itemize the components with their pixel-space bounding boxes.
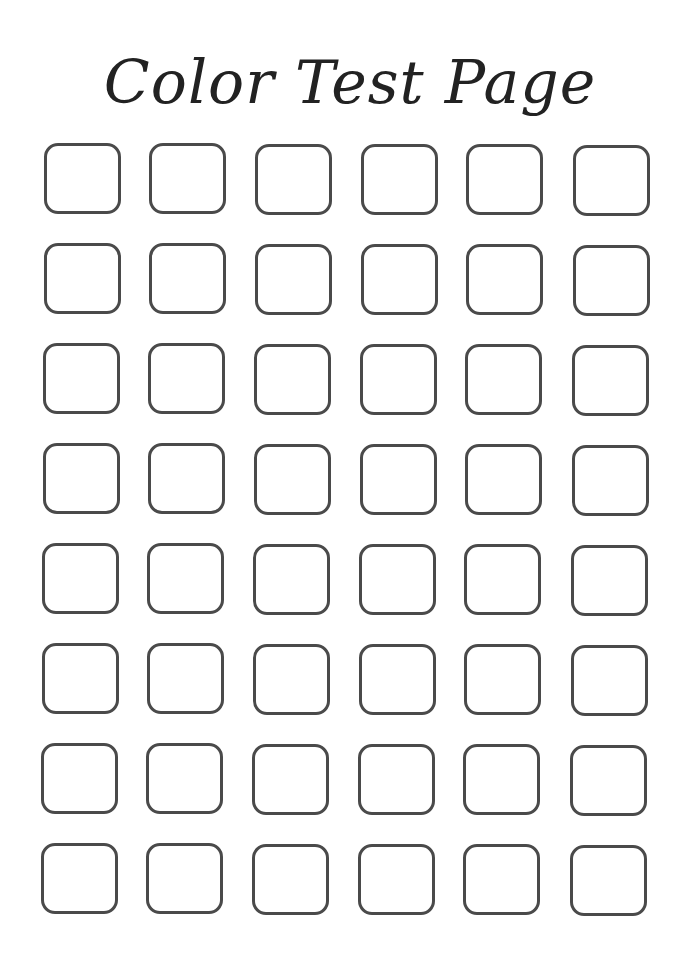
swatch-grid <box>0 0 688 963</box>
color-swatch-box <box>255 244 332 315</box>
color-swatch-box <box>464 544 541 615</box>
color-swatch-box <box>463 844 540 915</box>
color-swatch-box <box>464 644 541 715</box>
color-swatch-box <box>147 643 224 714</box>
color-swatch-box <box>148 343 225 414</box>
color-swatch-box <box>253 544 330 615</box>
color-swatch-box <box>359 644 436 715</box>
color-swatch-box <box>252 744 329 815</box>
color-swatch-box <box>41 743 118 814</box>
color-swatch-box <box>41 843 118 914</box>
color-swatch-box <box>573 245 650 316</box>
color-swatch-box <box>361 144 438 215</box>
color-swatch-box <box>255 144 332 215</box>
color-swatch-box <box>43 343 120 414</box>
color-swatch-box <box>42 543 119 614</box>
color-swatch-box <box>360 444 437 515</box>
color-swatch-box <box>358 844 435 915</box>
color-swatch-box <box>573 145 650 216</box>
color-swatch-box <box>44 143 121 214</box>
color-swatch-box <box>43 443 120 514</box>
color-swatch-box <box>253 644 330 715</box>
color-swatch-box <box>465 344 542 415</box>
color-swatch-box <box>571 645 648 716</box>
color-swatch-box <box>359 544 436 615</box>
color-swatch-box <box>147 543 224 614</box>
color-swatch-box <box>571 545 648 616</box>
color-swatch-box <box>252 844 329 915</box>
color-swatch-box <box>466 144 543 215</box>
color-swatch-box <box>465 444 542 515</box>
color-swatch-box <box>254 344 331 415</box>
color-swatch-box <box>146 743 223 814</box>
color-swatch-box <box>146 843 223 914</box>
color-swatch-box <box>149 143 226 214</box>
color-swatch-box <box>148 443 225 514</box>
color-swatch-box <box>358 744 435 815</box>
color-swatch-box <box>570 845 647 916</box>
color-swatch-box <box>44 243 121 314</box>
color-swatch-box <box>466 244 543 315</box>
color-swatch-box <box>572 345 649 416</box>
color-swatch-box <box>570 745 647 816</box>
color-swatch-box <box>254 444 331 515</box>
color-swatch-box <box>572 445 649 516</box>
color-swatch-box <box>42 643 119 714</box>
color-swatch-box <box>463 744 540 815</box>
color-swatch-box <box>361 244 438 315</box>
color-swatch-box <box>360 344 437 415</box>
color-swatch-box <box>149 243 226 314</box>
